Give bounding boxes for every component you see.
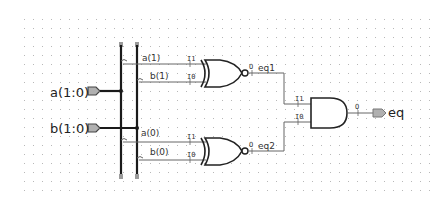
wire-b0[interactable] (137, 157, 206, 161)
output-label-eq: eq (388, 106, 404, 119)
input-port-b[interactable] (88, 124, 139, 132)
pin-i1-xnor2: I1 (187, 134, 195, 141)
pin-i1-xnor1: I1 (187, 56, 195, 63)
input-port-a[interactable] (88, 87, 123, 95)
and-gate[interactable] (311, 98, 347, 128)
net-label-a0: a(0) (141, 129, 159, 138)
pin-i0-and: I0 (295, 114, 303, 121)
pin-o-xnor2: O (249, 142, 253, 149)
schematic-wires (0, 0, 446, 208)
wire-b1[interactable] (137, 79, 206, 83)
input-label-a: a(1:0) (50, 86, 89, 99)
net-label-b0: b(0) (150, 148, 168, 157)
schematic-canvas[interactable]: a(1:0) b(1:0) eq a(1) b(1) a(0) b(0) eq1… (0, 0, 446, 208)
xnor-gate-2[interactable] (201, 138, 248, 165)
bus-a[interactable] (119, 42, 123, 179)
output-port-eq[interactable] (347, 109, 386, 117)
pin-o-and: O (355, 104, 359, 111)
pin-i0-xnor2: I0 (187, 152, 195, 159)
input-label-b: b(1:0) (50, 122, 89, 135)
pin-i1-and: I1 (295, 96, 303, 103)
xnor-gate-1[interactable] (201, 60, 248, 87)
pin-o-xnor1: O (249, 64, 253, 71)
net-label-eq1: eq1 (258, 64, 275, 73)
net-label-b1: b(1) (150, 72, 168, 81)
net-label-a1: a(1) (142, 54, 160, 63)
net-label-eq2: eq2 (258, 142, 275, 151)
bus-b[interactable] (135, 42, 139, 179)
pin-i0-xnor1: I0 (187, 74, 195, 81)
